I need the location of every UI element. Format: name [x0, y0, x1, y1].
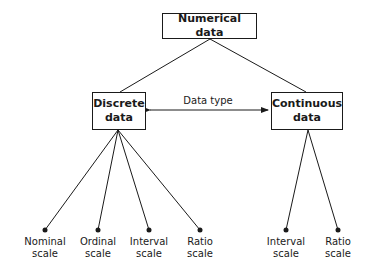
- connector-lines: [0, 0, 373, 272]
- leaf-label-line2: scale: [15, 248, 75, 260]
- leaf-label-line1: Ratio: [170, 236, 230, 248]
- leaf-label-line1: Nominal: [15, 236, 75, 248]
- leaf-dot-icon: [96, 228, 101, 233]
- node-label-line1: Discrete: [93, 97, 145, 111]
- leaf-nominal-scale: Nominal scale: [15, 236, 75, 260]
- leaf-dot-icon: [284, 228, 289, 233]
- relation-label-data-type: Data type: [168, 95, 248, 106]
- leaf-dot-icon: [43, 228, 48, 233]
- node-continuous-data: Continuous data: [271, 92, 343, 130]
- leaf-label-line2: scale: [256, 248, 316, 260]
- leaf-label-line1: Interval: [256, 236, 316, 248]
- leaf-ratio-scale-continuous: Ratio scale: [308, 236, 368, 260]
- leaf-label-line2: scale: [308, 248, 368, 260]
- node-label-line1: Continuous: [272, 97, 342, 111]
- leaf-dot-icon: [198, 228, 203, 233]
- node-label-line2: data: [293, 111, 321, 125]
- leaf-ratio-scale-discrete: Ratio scale: [170, 236, 230, 260]
- node-label-line2: data: [105, 111, 133, 125]
- node-discrete-data: Discrete data: [92, 92, 146, 130]
- leaf-interval-scale-continuous: Interval scale: [256, 236, 316, 260]
- root-to-discrete-line: [120, 39, 210, 92]
- leaf-label-line2: scale: [170, 248, 230, 260]
- leaf-label-line1: Ratio: [308, 236, 368, 248]
- root-node-label: Numerical data: [163, 12, 256, 40]
- leaf-dot-icon: [147, 228, 152, 233]
- root-to-continuous-line: [210, 39, 306, 92]
- diagram-canvas: Numerical data Discrete data Continuous …: [0, 0, 373, 272]
- root-node-numerical-data: Numerical data: [162, 13, 257, 39]
- leaf-dot-icon: [336, 228, 341, 233]
